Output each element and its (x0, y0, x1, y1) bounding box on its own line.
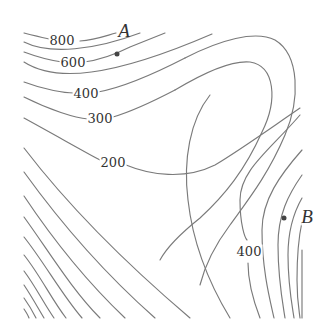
contour-label-300: 300 (87, 112, 114, 125)
point-b-label: B (301, 207, 313, 226)
contour-label-200: 200 (100, 156, 127, 169)
point-a-marker (115, 52, 120, 57)
contour-label-800: 800 (49, 34, 76, 47)
contour-label-400-top: 400 (73, 87, 100, 100)
contour-lines (0, 0, 326, 333)
contour-label-600: 600 (60, 56, 87, 69)
point-b-marker (282, 216, 287, 221)
contour-label-400-right: 400 (236, 245, 263, 258)
point-a-label: A (118, 21, 130, 40)
